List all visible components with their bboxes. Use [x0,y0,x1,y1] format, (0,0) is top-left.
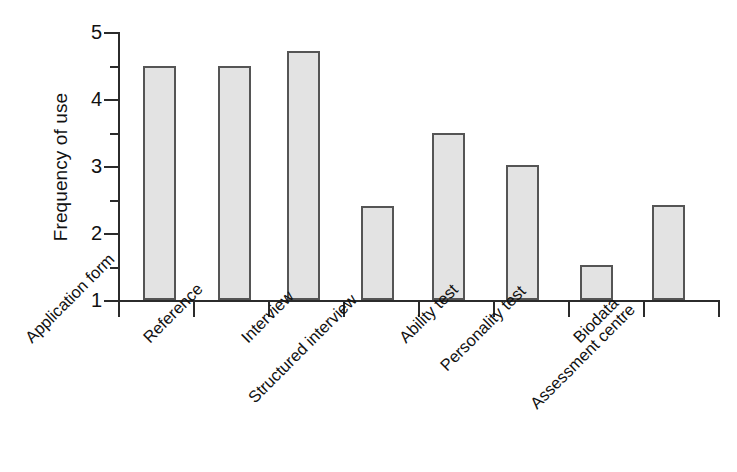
x-tick-0 [118,302,120,317]
bar-ability-test [432,133,465,301]
y-tick-label-3: 3 [76,156,102,176]
y-axis-title: Frequency of use [50,42,72,292]
x-category-label-ability-test: Ability test [396,281,461,346]
bar-interview [287,51,320,300]
bar-application-form [143,66,176,301]
bar-personality-test [506,165,539,300]
bar-structured-interview [361,206,394,300]
x-tick-8 [718,302,720,317]
y-tick-major-3 [104,166,120,168]
bar-assessment-centre [652,205,685,300]
y-tick-label-5: 5 [76,22,102,42]
x-tick-6 [568,302,570,317]
x-category-label-assessment-centre: Assessment centre [527,301,638,412]
y-tick-major-2 [104,233,120,235]
y-tick-label-4: 4 [76,89,102,109]
bar-reference [218,66,251,301]
y-tick-label-2: 2 [76,223,102,243]
y-tick-minor-4-5 [110,66,120,68]
y-tick-major-5 [104,32,120,34]
y-tick-major-4 [104,99,120,101]
y-tick-minor-3-5 [110,133,120,135]
x-tick-7 [643,302,645,317]
bar-chart: Frequency of use 5 4 3 2 1 Application f… [0,0,737,472]
y-tick-minor-2-5 [110,200,120,202]
